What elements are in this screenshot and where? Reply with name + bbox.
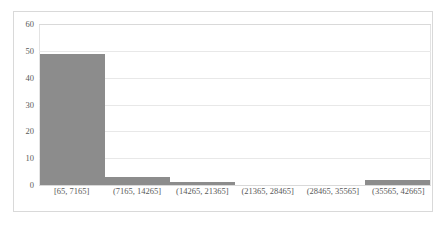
x-tick-label: (7165, 14265] xyxy=(104,187,169,196)
x-tick-label: (21365, 28465] xyxy=(235,187,300,196)
x-tick-label: (28465, 35565] xyxy=(300,187,365,196)
y-tick-label: 10 xyxy=(26,154,35,163)
bar[interactable] xyxy=(365,180,430,185)
x-tick-label: [65, 7165] xyxy=(39,187,104,196)
y-tick-label: 20 xyxy=(26,127,35,136)
bar-slot xyxy=(365,24,430,185)
bar-slot xyxy=(300,24,365,185)
bar[interactable] xyxy=(105,177,170,185)
bar[interactable] xyxy=(40,54,105,185)
plot-area: 6050403020100 xyxy=(39,24,431,185)
bar[interactable] xyxy=(170,182,235,185)
y-tick-label: 30 xyxy=(26,100,35,109)
y-tick-label: 0 xyxy=(30,181,34,190)
bar-slot xyxy=(40,24,105,185)
x-axis-tick-labels: [65, 7165](7165, 14265](14265, 21365](21… xyxy=(39,187,431,196)
y-tick-label: 40 xyxy=(26,73,35,82)
y-tick-label: 60 xyxy=(26,20,35,29)
x-tick-label: (35565, 42665] xyxy=(366,187,431,196)
bar-slot xyxy=(235,24,300,185)
bar-slot xyxy=(170,24,235,185)
bar-slot xyxy=(105,24,170,185)
chart-frame: 6050403020100 [65, 7165](7165, 14265](14… xyxy=(13,11,433,212)
x-tick-label: (14265, 21365] xyxy=(170,187,235,196)
y-tick-label: 50 xyxy=(26,47,35,56)
bar-series xyxy=(40,24,430,185)
